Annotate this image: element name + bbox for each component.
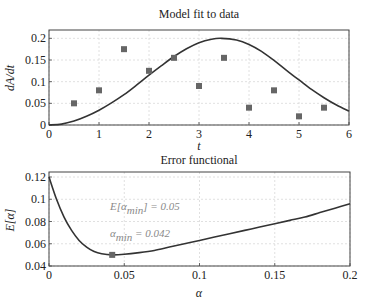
top-plot-title: Model fit to data: [159, 7, 240, 21]
top-ylabel: dA/dt: [3, 64, 17, 91]
figure: Model fit to data 012345600.050.10.150.2…: [0, 0, 370, 301]
x-tick-label: 0.2: [343, 268, 358, 282]
x-tick-label: 1: [96, 127, 102, 141]
y-tick-label: 0.06: [25, 237, 46, 251]
x-tick-label: 0: [46, 268, 52, 282]
x-tick-label: 0.1: [192, 268, 207, 282]
x-tick-label: 4: [246, 127, 252, 141]
data-marker: [221, 55, 227, 61]
annotation-alpha-min: αmin = 0.042: [110, 227, 170, 243]
x-tick-label: 2: [146, 127, 152, 141]
x-tick-label: 0: [46, 127, 52, 141]
y-tick-label: 0.12: [25, 170, 46, 184]
bottom-plot: Error functional 00.050.10.150.20.040.06…: [3, 153, 358, 300]
top-plot: Model fit to data 012345600.050.10.150.2…: [3, 7, 352, 153]
data-marker: [121, 46, 127, 52]
data-marker: [246, 105, 252, 111]
x-tick-label: 0.05: [114, 268, 135, 282]
y-tick-label: 0.05: [25, 96, 46, 110]
y-tick-label: 0.2: [31, 31, 46, 45]
annotation-e-min: E[αmin] = 0.05: [109, 200, 180, 216]
data-marker: [171, 55, 177, 61]
top-xlabel: t: [197, 139, 201, 153]
y-tick-label: 0.08: [25, 215, 46, 229]
data-marker: [321, 105, 327, 111]
bottom-xlabel: α: [196, 286, 203, 300]
y-tick-label: 0.04: [25, 259, 46, 273]
y-tick-label: 0.1: [31, 192, 46, 206]
x-tick-label: 0.15: [264, 268, 285, 282]
x-tick-label: 6: [346, 127, 352, 141]
bottom-tick-labels: 00.050.10.150.20.040.060.080.10.12: [25, 170, 358, 282]
data-marker: [71, 100, 77, 106]
top-grid: [49, 30, 349, 125]
data-marker: [196, 83, 202, 89]
y-tick-label: 0: [40, 118, 46, 132]
data-marker: [271, 87, 277, 93]
data-marker: [96, 87, 102, 93]
data-marker: [146, 68, 152, 74]
y-tick-label: 0.1: [31, 75, 46, 89]
y-tick-label: 0.15: [25, 53, 46, 67]
data-marker: [296, 113, 302, 119]
bottom-plot-title: Error functional: [161, 153, 239, 167]
x-tick-label: 5: [296, 127, 302, 141]
data-marker: [109, 252, 115, 258]
bottom-ylabel: E[α]: [3, 208, 17, 232]
minimum-marker: [109, 252, 115, 258]
